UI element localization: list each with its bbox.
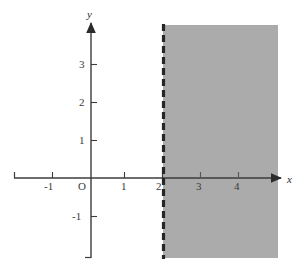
y-tick-label-3: 3: [79, 59, 85, 70]
y-tick-label-neg1: -1: [72, 211, 81, 222]
shaded-solution-region: [163, 25, 278, 258]
y-axis-ticks: [91, 65, 97, 217]
y-axis-arrowhead: [86, 22, 96, 33]
plot-canvas: [0, 0, 298, 268]
x-tick-label-3: 3: [196, 181, 202, 192]
x-tick-label-neg1: -1: [44, 181, 53, 192]
y-tick-label-2: 2: [79, 97, 85, 108]
origin-label: O: [78, 181, 86, 192]
x-axis-label: x: [287, 174, 292, 185]
x-tick-label-2: 2: [156, 181, 162, 192]
coordinate-plane-figure: -1 1 2 3 4 3 2 1 -1 O x y: [0, 0, 298, 268]
x-tick-label-1: 1: [121, 181, 127, 192]
y-tick-label-1: 1: [79, 135, 85, 146]
x-tick-label-4: 4: [234, 181, 240, 192]
y-axis-label: y: [87, 9, 92, 20]
